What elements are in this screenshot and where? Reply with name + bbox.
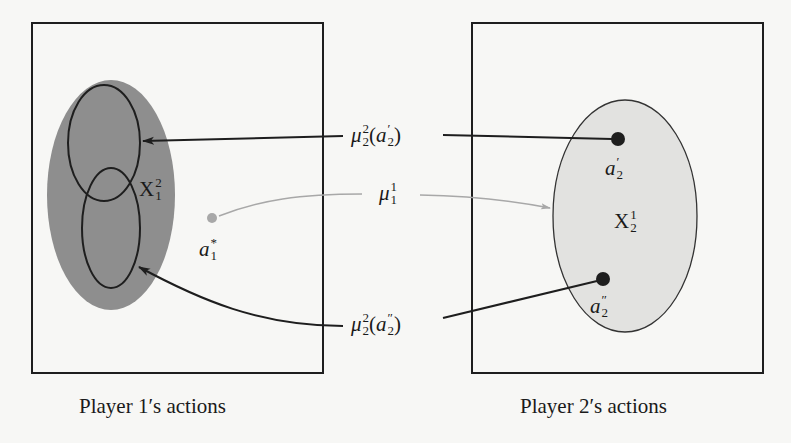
arrow-mu22-a2-double-prime xyxy=(139,267,343,326)
caption-player2: Player 2′s actions xyxy=(520,394,667,419)
label-a2-prime: a′2 xyxy=(605,157,623,183)
point-a2-prime xyxy=(611,132,625,146)
label-mu22-a2-prime: μ22(a′2) xyxy=(351,124,401,150)
caption-player1: Player 1′s actions xyxy=(79,394,226,419)
diagram-canvas xyxy=(0,0,791,443)
arrow-mu11-tail xyxy=(420,195,550,208)
point-a2-double-prime xyxy=(596,272,610,286)
label-mu11: μ11 xyxy=(379,182,397,208)
label-a2-double-prime: a″2 xyxy=(590,295,608,321)
label-a1-star: a*1 xyxy=(199,238,217,264)
arrow-mu11 xyxy=(219,194,362,216)
point-a1-star xyxy=(207,213,217,223)
label-x21: X12 xyxy=(614,210,637,236)
label-x12: X21 xyxy=(139,178,162,204)
label-mu22-a2-double-prime: μ22(a″2) xyxy=(351,313,401,339)
line-a2-double-prime-to-label xyxy=(443,281,597,318)
arrow-mu22-a2-prime xyxy=(143,136,343,141)
